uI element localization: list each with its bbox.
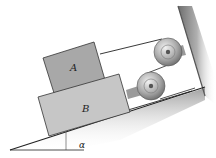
incline-diagram: A B α: [0, 0, 216, 158]
pulley-upper: [154, 38, 186, 66]
block-a-label: A: [69, 62, 77, 73]
block-b-label: B: [81, 103, 89, 114]
angle-label: α: [79, 140, 85, 150]
pulley-lower: [126, 72, 165, 100]
